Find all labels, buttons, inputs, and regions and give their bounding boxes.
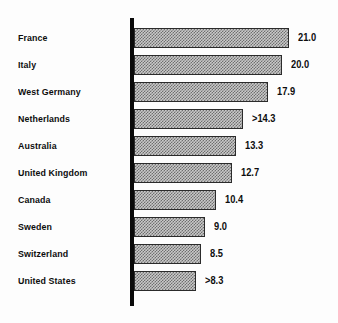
bar-row: Canada10.4 [0, 190, 338, 210]
bar-track: 8.5 [134, 244, 338, 264]
bar-value-label: 9.0 [214, 217, 227, 237]
bar-value-label: >8.3 [205, 271, 223, 291]
bar-track: 13.3 [134, 136, 338, 156]
bar-track: >8.3 [134, 271, 338, 291]
bar-rows-container: France21.0Italy20.0West Germany17.9Nethe… [0, 28, 338, 298]
category-label: Australia [18, 136, 57, 156]
bar [134, 55, 282, 75]
bar-track: >14.3 [134, 109, 338, 129]
category-label: Sweden [18, 217, 52, 237]
bar-value-label: 21.0 [298, 28, 316, 48]
bar [134, 28, 289, 48]
category-label: Italy [18, 55, 36, 75]
bar [134, 244, 201, 264]
bar-row: Switzerland8.5 [0, 244, 338, 264]
category-label: Netherlands [18, 109, 70, 129]
category-label: Switzerland [18, 244, 68, 264]
category-label: United Kingdom [18, 163, 88, 183]
bar-track: 17.9 [134, 82, 338, 102]
bar-value-label: 17.9 [277, 82, 295, 102]
bar-value-label: 10.4 [225, 190, 243, 210]
bar-row: United States>8.3 [0, 271, 338, 291]
category-label: West Germany [18, 82, 81, 102]
bar [134, 163, 232, 183]
bar-row: West Germany17.9 [0, 82, 338, 102]
category-label: Canada [18, 190, 50, 210]
bar [134, 82, 268, 102]
bar-value-label: 12.7 [241, 163, 259, 183]
bar-track: 20.0 [134, 55, 338, 75]
category-label: France [18, 28, 48, 48]
bar-row: Sweden9.0 [0, 217, 338, 237]
bar-value-label: 20.0 [291, 55, 309, 75]
bar-row: France21.0 [0, 28, 338, 48]
category-label: United States [18, 271, 76, 291]
bar-value-label: 8.5 [210, 244, 223, 264]
bar-track: 12.7 [134, 163, 338, 183]
bar-chart: France21.0Italy20.0West Germany17.9Nethe… [0, 0, 338, 323]
bar [134, 109, 243, 129]
bar-value-label: >14.3 [252, 109, 276, 129]
bar-row: Netherlands>14.3 [0, 109, 338, 129]
bar [134, 190, 216, 210]
bar-track: 9.0 [134, 217, 338, 237]
bar-track: 10.4 [134, 190, 338, 210]
bar-value-label: 13.3 [245, 136, 263, 156]
bar [134, 271, 196, 291]
bar [134, 217, 205, 237]
bar-track: 21.0 [134, 28, 338, 48]
bar-row: Australia13.3 [0, 136, 338, 156]
bar-row: United Kingdom12.7 [0, 163, 338, 183]
bar [134, 136, 236, 156]
bar-row: Italy20.0 [0, 55, 338, 75]
